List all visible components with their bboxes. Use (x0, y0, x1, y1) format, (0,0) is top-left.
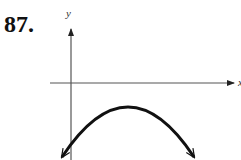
x-axis-label: x (237, 76, 241, 88)
parabola-left-branch (62, 107, 128, 157)
y-axis-label: y (65, 7, 71, 19)
parabola-right-branch (128, 107, 194, 157)
graph: y x (0, 0, 241, 160)
